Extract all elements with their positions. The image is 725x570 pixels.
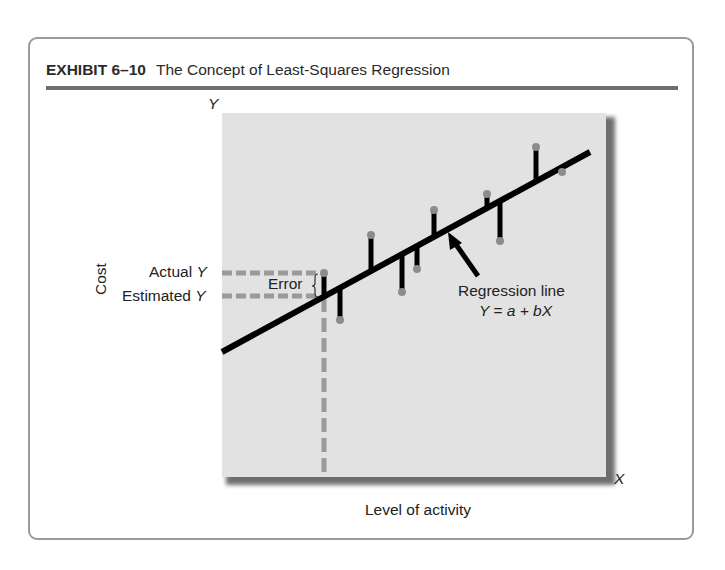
regression-line [222,152,590,352]
estimated-y-symbol: Y [195,287,205,304]
estimated-y-text: Estimated [122,287,191,304]
y-axis-label: Cost [92,263,110,295]
x-axis-symbol: X [614,470,624,488]
regression-equation: Y = a + bX [479,302,552,320]
x-axis-label: Level of activity [365,501,471,519]
regression-line-label: Regression line [458,282,565,300]
error-label: Error [268,275,302,293]
y-axis-symbol: Y [208,95,218,113]
estimated-y-label: Estimated Y [122,287,206,305]
actual-y-text: Actual [149,263,192,280]
actual-y-label: Actual Y [149,263,207,281]
arrow-icon [448,232,478,276]
actual-y-symbol: Y [196,263,206,280]
